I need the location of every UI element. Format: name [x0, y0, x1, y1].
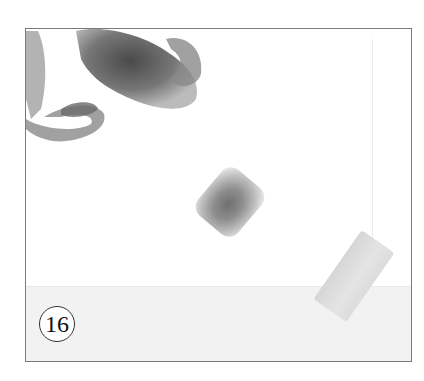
illustration-frame — [25, 28, 412, 362]
step-number-badge: 16 — [39, 306, 75, 342]
